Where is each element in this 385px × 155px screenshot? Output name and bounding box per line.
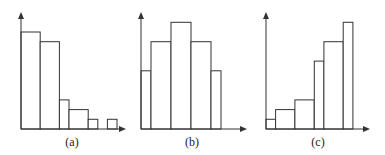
panel-label-b: (b) <box>185 135 199 149</box>
histogram-bar <box>276 110 295 129</box>
histogram-bar <box>21 32 40 129</box>
panel-label-c: (c) <box>311 135 324 149</box>
x-axis-arrow-b <box>240 126 247 132</box>
histogram-bar <box>141 71 151 129</box>
histogram-bar <box>69 110 88 129</box>
histogram-bar <box>295 100 314 129</box>
y-axis-arrow-b <box>138 12 144 19</box>
bars-a <box>21 32 117 129</box>
y-axis-arrow-c <box>263 12 269 19</box>
panel-a: (a) <box>18 12 126 149</box>
bars-c <box>266 22 353 129</box>
histogram-bar <box>40 42 59 129</box>
panel-c: (c) <box>263 12 370 149</box>
histogram-bar <box>324 42 343 129</box>
histogram-bar <box>266 119 276 129</box>
histogram-bar <box>171 22 191 129</box>
histogram-bar <box>59 100 69 129</box>
panel-b: (b) <box>138 12 247 149</box>
panel-label-a: (a) <box>65 135 78 149</box>
x-axis-arrow-a <box>119 126 126 132</box>
bars-b <box>141 22 221 129</box>
y-axis-arrow-a <box>18 12 24 19</box>
histogram-bar <box>211 71 221 129</box>
x-axis-arrow-c <box>363 126 370 132</box>
histogram-figure: (a) (b) (c) <box>0 0 385 155</box>
histogram-bar <box>191 42 211 129</box>
histogram-bar <box>343 22 353 129</box>
histogram-bar <box>88 119 98 129</box>
histogram-bar <box>314 61 324 129</box>
histogram-bar <box>107 119 117 129</box>
histogram-bar <box>151 42 171 129</box>
